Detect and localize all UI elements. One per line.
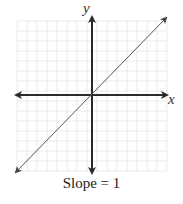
slope-line <box>91 18 166 95</box>
slope-caption: Slope = 1 <box>0 176 183 191</box>
slope-diagram <box>0 0 183 204</box>
y-axis-label: y <box>83 1 90 16</box>
x-axis-label: x <box>168 92 175 107</box>
